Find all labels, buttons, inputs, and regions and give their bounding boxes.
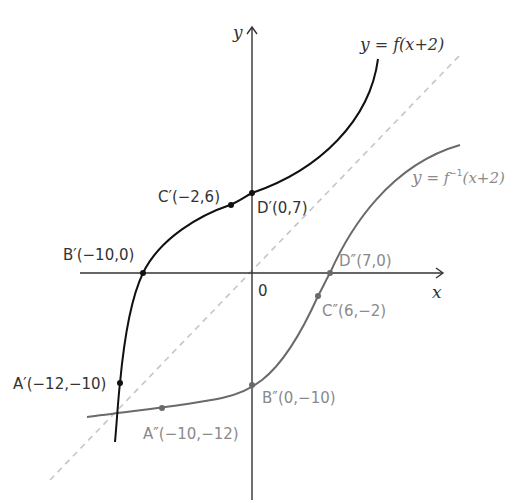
origin-label: 0 bbox=[258, 282, 268, 300]
point-B-double-prime bbox=[249, 382, 255, 388]
point-C-prime bbox=[228, 202, 234, 208]
f-inverse-curve-label: y = f−1(x+2) bbox=[411, 167, 505, 187]
point-A-prime bbox=[117, 380, 123, 386]
y-axis-label: y bbox=[232, 22, 243, 42]
point-B-prime bbox=[140, 270, 146, 276]
f-curve-label: y = f(x+2) bbox=[359, 34, 444, 54]
label-B-prime: B′(−10,0) bbox=[63, 246, 134, 264]
x-axis-label: x bbox=[432, 282, 442, 302]
label-B-double-prime: B″(0,−10) bbox=[262, 389, 336, 407]
label-D-double-prime: D″(7,0) bbox=[339, 252, 392, 270]
y-axis bbox=[247, 27, 257, 500]
label-A-double-prime: A″(−10,−12) bbox=[143, 425, 239, 443]
label-D-prime: D′(0,7) bbox=[257, 199, 308, 217]
point-C-double-prime bbox=[315, 293, 321, 299]
point-D-prime bbox=[249, 190, 255, 196]
function-graph: y x 0 y = f(x+2) y = f−1(x+2) A′(−12,−10… bbox=[0, 0, 508, 502]
label-A-prime: A′(−12,−10) bbox=[13, 375, 106, 393]
label-C-double-prime: C″(6,−2) bbox=[322, 302, 386, 320]
point-D-double-prime bbox=[327, 270, 333, 276]
point-A-double-prime bbox=[159, 405, 165, 411]
curve-f-inverse bbox=[87, 145, 460, 417]
mirror-line-y-equals-x bbox=[50, 55, 460, 480]
label-C-prime: C′(−2,6) bbox=[158, 188, 220, 206]
curve-f bbox=[115, 59, 378, 442]
